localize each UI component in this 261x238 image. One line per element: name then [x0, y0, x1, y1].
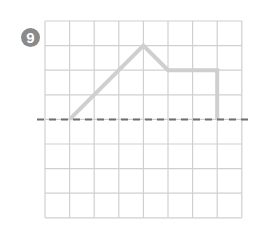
- grid-figure: [0, 0, 261, 238]
